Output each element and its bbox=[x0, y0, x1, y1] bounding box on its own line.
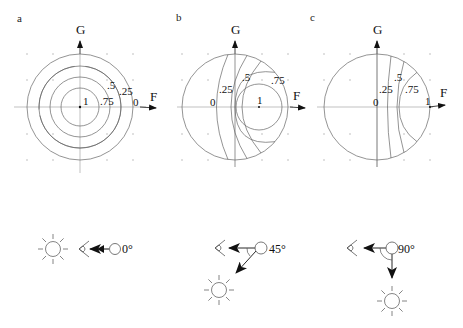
label-075: .75 bbox=[271, 74, 285, 86]
label-05: .5 bbox=[242, 71, 251, 83]
panel-letter-c: c bbox=[310, 11, 315, 23]
sun-icon bbox=[38, 234, 68, 264]
label-1: 1 bbox=[425, 95, 431, 107]
figure: a 1 .75 .5 .25 0 F G bbox=[0, 0, 463, 328]
label-1: 1 bbox=[83, 95, 89, 107]
label-075: .75 bbox=[100, 95, 114, 107]
label-025: .25 bbox=[379, 83, 393, 95]
g-axis-label: G bbox=[231, 22, 240, 37]
contour-1-point bbox=[258, 106, 260, 108]
label-05: .5 bbox=[107, 79, 116, 91]
label-1: 1 bbox=[257, 94, 263, 106]
g-axis-label: G bbox=[373, 22, 382, 37]
sample-sphere-icon bbox=[110, 244, 121, 255]
light-arrow-icon bbox=[97, 245, 104, 253]
f-axis-label: F bbox=[150, 89, 157, 104]
label-025: .25 bbox=[219, 83, 233, 95]
phase-angle-label: 0° bbox=[122, 242, 133, 256]
label-075: .75 bbox=[405, 83, 419, 95]
label-0: 0 bbox=[133, 96, 139, 108]
contour-1-point bbox=[79, 106, 81, 108]
panel-b: b 0 .25 .5 .75 1 F G bbox=[176, 11, 305, 305]
label-0: 0 bbox=[210, 96, 216, 108]
geometry-diagram-a: 0° bbox=[38, 234, 133, 264]
panel-a: a 1 .75 .5 .25 0 F G bbox=[14, 12, 157, 264]
f-axis-arrow-icon bbox=[140, 107, 156, 108]
contour-plot-b: 0 .25 .5 .75 1 F G bbox=[177, 22, 305, 167]
geometry-diagram-c: 90° bbox=[347, 240, 415, 316]
contour-plot-c: 0 .25 .5 .75 1 F G bbox=[317, 22, 447, 167]
panel-letter-a: a bbox=[17, 12, 22, 24]
eye-icon bbox=[347, 240, 357, 256]
f-axis-arrow-icon bbox=[290, 107, 305, 108]
eye-icon bbox=[215, 240, 225, 256]
eye-icon bbox=[79, 241, 89, 257]
phase-angle-label: 45° bbox=[269, 242, 286, 256]
sample-sphere-icon bbox=[255, 242, 267, 254]
light-arrow-icon bbox=[236, 251, 256, 273]
f-axis-arrow-icon bbox=[429, 105, 445, 107]
geometry-diagram-b: 45° bbox=[204, 240, 286, 305]
sample-sphere-icon bbox=[386, 242, 398, 254]
contour-plot-a: 1 .75 .5 .25 0 F G bbox=[14, 22, 157, 173]
f-axis-label: F bbox=[293, 88, 300, 103]
g-axis-label: G bbox=[76, 22, 85, 37]
label-025: .25 bbox=[119, 85, 133, 97]
label-0: 0 bbox=[373, 96, 379, 108]
sun-icon bbox=[377, 286, 407, 316]
panel-c: c 0 .25 .5 .75 1 F G 90° bbox=[310, 11, 447, 316]
panel-letter-b: b bbox=[176, 11, 182, 23]
label-05: .5 bbox=[394, 71, 403, 83]
phase-angle-label: 90° bbox=[398, 242, 415, 256]
f-axis-label: F bbox=[440, 85, 447, 100]
angle-arc bbox=[247, 248, 250, 256]
sun-icon bbox=[204, 275, 234, 305]
